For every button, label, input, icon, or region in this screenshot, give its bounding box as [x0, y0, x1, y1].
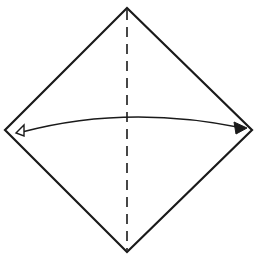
origami-diagram: [0, 0, 260, 260]
background: [0, 0, 260, 260]
